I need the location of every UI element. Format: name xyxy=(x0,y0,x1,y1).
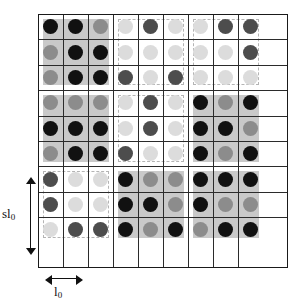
arrow-head-down-icon xyxy=(26,248,36,255)
lattice-dot-r3-c1 xyxy=(43,70,58,85)
lattice-dot-r3-c4 xyxy=(118,70,133,85)
lattice-dot-r8-c9 xyxy=(243,197,258,212)
sl0-label: sl0 xyxy=(2,206,15,222)
arrow-shaft-vertical xyxy=(30,181,31,251)
lattice-dot-r3-c5 xyxy=(143,70,158,85)
lattice-dot-r2-c2 xyxy=(68,45,83,60)
sl0-dimension-arrow xyxy=(24,177,38,255)
lattice-dot-r7-c5 xyxy=(143,172,158,187)
lattice-dot-r2-c1 xyxy=(43,45,58,60)
lattice-dot-r5-c7 xyxy=(193,121,208,136)
arrow-head-right-icon xyxy=(76,275,83,285)
lattice-dot-r2-c9 xyxy=(243,45,258,60)
l0-label-subscript: 0 xyxy=(58,290,63,300)
lattice-dot-r2-c4 xyxy=(118,45,133,60)
lattice-dot-r3-c8 xyxy=(218,70,233,85)
lattice-dot-r3-c7 xyxy=(193,70,208,85)
lattice-dot-r8-c4 xyxy=(118,197,133,212)
lattice-dot-r3-c6 xyxy=(168,70,183,85)
lattice-dot-r3-c3 xyxy=(93,70,108,85)
lattice-grid xyxy=(38,14,288,268)
lattice-dot-r8-c3 xyxy=(93,197,108,212)
lattice-dot-r7-c2 xyxy=(68,172,83,187)
lattice-dot-r2-c3 xyxy=(93,45,108,60)
lattice-dot-r5-c9 xyxy=(243,121,258,136)
lattice-dot-r7-c7 xyxy=(193,172,208,187)
l0-label: l0 xyxy=(54,284,62,300)
lattice-dot-r2-c7 xyxy=(193,45,208,60)
lattice-dot-r5-c2 xyxy=(68,121,83,136)
lattice-dot-r8-c7 xyxy=(193,197,208,212)
arrow-shaft-horizontal xyxy=(49,278,79,279)
l0-dimension-arrow xyxy=(45,273,83,285)
lattice-dot-r8-c6 xyxy=(168,197,183,212)
lattice-dot-r8-c8 xyxy=(218,197,233,212)
lattice-dot-r8-c1 xyxy=(43,197,58,212)
lattice-dot-r5-c1 xyxy=(43,121,58,136)
lattice-dot-r7-c3 xyxy=(93,172,108,187)
lattice-dot-r7-c4 xyxy=(118,172,133,187)
sl0-label-subscript: 0 xyxy=(11,212,16,222)
lattice-dot-grid-diagram: sl0 l0 xyxy=(0,0,302,304)
lattice-dot-r7-c1 xyxy=(43,172,58,187)
lattice-dot-r3-c2 xyxy=(68,70,83,85)
lattice-dot-r5-c3 xyxy=(93,121,108,136)
lattice-dot-r5-c4 xyxy=(118,121,133,136)
lattice-dot-r5-c8 xyxy=(218,121,233,136)
lattice-dot-r2-c5 xyxy=(143,45,158,60)
lattice-dot-r8-c5 xyxy=(143,197,158,212)
lattice-dot-r2-c8 xyxy=(218,45,233,60)
arrow-head-left-icon xyxy=(45,275,52,285)
lattice-dot-r7-c8 xyxy=(218,172,233,187)
lattice-dot-r2-c6 xyxy=(168,45,183,60)
lattice-dot-r7-c9 xyxy=(243,172,258,187)
lattice-dot-r5-c5 xyxy=(143,121,158,136)
sl0-label-text: sl xyxy=(2,206,11,221)
lattice-dot-r3-c9 xyxy=(243,70,258,85)
lattice-dot-r8-c2 xyxy=(68,197,83,212)
lattice-dot-r7-c6 xyxy=(168,172,183,187)
lattice-dot-r5-c6 xyxy=(168,121,183,136)
